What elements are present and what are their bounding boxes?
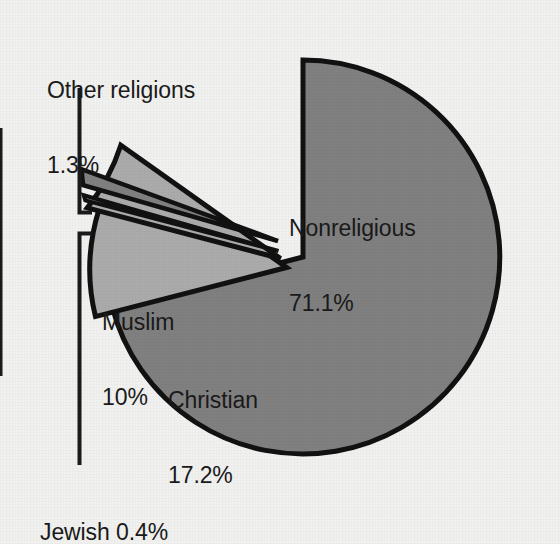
slice-label-muslim-value: 10%	[102, 385, 174, 410]
slice-label-nonreligious-value: 71.1%	[289, 291, 416, 316]
pie-chart-figure: Other religions 1.3% Nonreligious 71.1% …	[0, 0, 560, 544]
adjacent-figure-border	[0, 128, 3, 376]
slice-label-other-religions: Other religions 1.3%	[47, 28, 195, 228]
slice-label-christian: Christian 17.2%	[168, 338, 258, 538]
slice-label-other-religions-value: 1.3%	[47, 153, 195, 178]
slice-label-christian-name: Christian	[168, 388, 258, 413]
slice-label-other-religions-name: Other religions	[47, 78, 195, 103]
slice-label-nonreligious-name: Nonreligious	[289, 216, 416, 241]
slice-label-muslim: Muslim 10%	[102, 260, 174, 460]
slice-label-christian-value: 17.2%	[168, 463, 258, 488]
slice-label-jewish-text: Jewish 0.4%	[40, 520, 168, 544]
slice-label-jewish: Jewish 0.4%	[40, 470, 168, 544]
slice-label-nonreligious: Nonreligious 71.1%	[289, 166, 416, 366]
slice-label-muslim-name: Muslim	[102, 310, 174, 335]
